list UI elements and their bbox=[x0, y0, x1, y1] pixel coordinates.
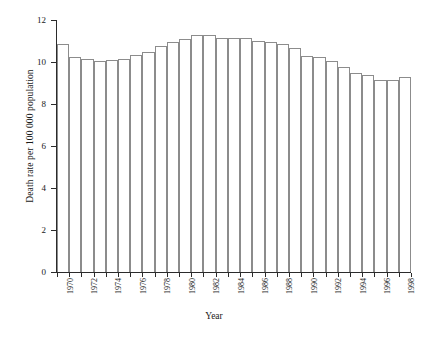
bar bbox=[69, 57, 81, 272]
bar bbox=[191, 35, 203, 272]
bar bbox=[326, 61, 338, 272]
x-tick-mark bbox=[118, 273, 119, 277]
bar bbox=[387, 80, 399, 272]
x-tick-mark bbox=[399, 273, 400, 277]
bar bbox=[374, 80, 386, 272]
y-tick-mark bbox=[51, 230, 56, 231]
x-tick-mark bbox=[265, 273, 266, 277]
x-tick-label: 1974 bbox=[115, 278, 123, 294]
x-tick-mark bbox=[216, 273, 217, 277]
bar bbox=[228, 38, 240, 272]
x-tick-label: 1972 bbox=[91, 278, 99, 294]
x-tick-mark bbox=[81, 273, 82, 277]
y-tick-label: 12 bbox=[12, 16, 46, 25]
x-tick-label: 1996 bbox=[384, 278, 392, 294]
bar bbox=[81, 59, 93, 272]
bar bbox=[167, 42, 179, 272]
x-tick-label: 1970 bbox=[67, 278, 75, 294]
x-tick-mark bbox=[387, 273, 388, 277]
bar bbox=[106, 60, 118, 272]
bar bbox=[130, 55, 142, 272]
bar bbox=[179, 39, 191, 272]
bar bbox=[277, 44, 289, 272]
y-tick-label: 8 bbox=[12, 100, 46, 109]
x-tick-label: 1994 bbox=[360, 278, 368, 294]
y-tick-mark bbox=[51, 146, 56, 147]
bar bbox=[252, 41, 264, 272]
bar-series bbox=[57, 20, 411, 272]
bar bbox=[57, 44, 69, 272]
bar bbox=[203, 35, 215, 272]
x-tick-label: 1992 bbox=[335, 278, 343, 294]
x-tick-mark bbox=[203, 273, 204, 277]
x-tick-mark bbox=[301, 273, 302, 277]
x-tick-mark bbox=[252, 273, 253, 277]
x-tick-label: 1986 bbox=[262, 278, 270, 294]
bar bbox=[155, 46, 167, 272]
x-tick-label: 1976 bbox=[140, 278, 148, 294]
bar bbox=[289, 48, 301, 272]
x-tick-label: 1980 bbox=[189, 278, 197, 294]
bar bbox=[240, 38, 252, 272]
bar bbox=[399, 77, 411, 272]
y-tick-label: 0 bbox=[12, 268, 46, 277]
x-tick-label: 1990 bbox=[311, 278, 319, 294]
y-tick-mark bbox=[51, 188, 56, 189]
x-tick-mark bbox=[277, 273, 278, 277]
bar bbox=[362, 75, 374, 272]
x-tick-mark bbox=[57, 273, 58, 277]
x-axis-title: Year bbox=[0, 311, 436, 321]
x-tick-label: 1982 bbox=[213, 278, 221, 294]
x-tick-mark bbox=[326, 273, 327, 277]
y-tick-mark bbox=[51, 272, 56, 273]
x-tick-label: 1998 bbox=[408, 278, 416, 294]
x-axis-line bbox=[56, 272, 411, 273]
x-tick-mark bbox=[167, 273, 168, 277]
y-tick-label: 10 bbox=[12, 58, 46, 67]
x-axis-title-text: Year bbox=[205, 311, 223, 321]
chart-figure: Death rate per 100 000 population 024681… bbox=[0, 0, 436, 342]
bar bbox=[142, 52, 154, 273]
y-tick-mark bbox=[51, 62, 56, 63]
x-tick-label: 1978 bbox=[164, 278, 172, 294]
bar bbox=[216, 38, 228, 272]
x-tick-mark bbox=[374, 273, 375, 277]
x-tick-mark bbox=[350, 273, 351, 277]
bar bbox=[338, 67, 350, 272]
x-tick-mark bbox=[142, 273, 143, 277]
bar bbox=[313, 57, 325, 272]
x-tick-mark bbox=[94, 273, 95, 277]
y-tick-label: 2 bbox=[12, 226, 46, 235]
x-tick-mark bbox=[228, 273, 229, 277]
y-tick-mark bbox=[51, 104, 56, 105]
x-tick-mark bbox=[179, 273, 180, 277]
x-tick-mark bbox=[155, 273, 156, 277]
x-tick-mark bbox=[289, 273, 290, 277]
y-tick-mark bbox=[51, 20, 56, 21]
x-tick-mark bbox=[69, 273, 70, 277]
y-tick-label: 6 bbox=[12, 142, 46, 151]
x-tick-mark bbox=[362, 273, 363, 277]
x-tick-label: 1984 bbox=[238, 278, 246, 294]
bar bbox=[350, 73, 362, 273]
bar bbox=[118, 59, 130, 272]
x-tick-mark bbox=[191, 273, 192, 277]
bar bbox=[265, 42, 277, 272]
x-tick-mark bbox=[130, 273, 131, 277]
x-tick-mark bbox=[106, 273, 107, 277]
bar bbox=[94, 61, 106, 272]
y-tick-label: 4 bbox=[12, 184, 46, 193]
x-tick-mark bbox=[313, 273, 314, 277]
bar bbox=[301, 56, 313, 272]
x-tick-mark bbox=[338, 273, 339, 277]
x-tick-label: 1988 bbox=[286, 278, 294, 294]
x-tick-mark bbox=[411, 273, 412, 277]
x-tick-mark bbox=[240, 273, 241, 277]
